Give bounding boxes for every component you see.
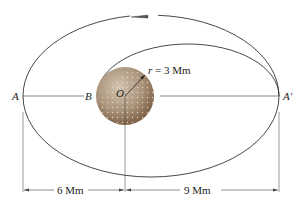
orbit-diagram: A B O A' r = 3 Mm 6 Mm 9 Mm <box>0 0 301 207</box>
point-a-label: A <box>11 90 19 102</box>
dimension-left-label: 6 Mm <box>57 184 84 196</box>
dimension-right-label: 9 Mm <box>184 184 211 196</box>
radius-var: r <box>148 64 153 76</box>
radius-value: = 3 Mm <box>155 64 191 76</box>
point-a-prime-label: A' <box>282 90 293 102</box>
point-o-label: O <box>116 87 124 99</box>
radius-label: r = 3 Mm <box>148 64 191 76</box>
point-b-label: B <box>85 90 92 102</box>
spacecraft-icon <box>131 15 148 18</box>
